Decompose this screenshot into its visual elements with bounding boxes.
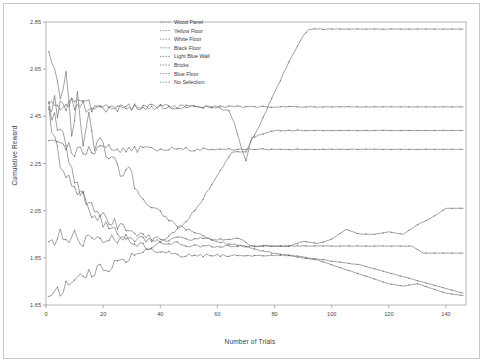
series-marker — [74, 230, 75, 231]
series-marker — [108, 228, 109, 229]
series-marker — [434, 215, 435, 216]
series-marker — [374, 279, 375, 280]
series-marker — [460, 130, 461, 131]
series-marker — [57, 146, 58, 147]
x-tick-label: 80 — [271, 311, 277, 317]
series-marker — [220, 238, 221, 239]
series-marker — [117, 229, 118, 230]
series-marker — [434, 130, 435, 131]
series-marker — [203, 199, 204, 200]
series-marker — [126, 152, 127, 153]
series-marker — [91, 111, 92, 112]
series-marker — [417, 224, 418, 225]
series-marker — [408, 106, 409, 107]
series-marker — [66, 110, 67, 111]
series-marker — [271, 98, 272, 99]
series-marker — [168, 149, 169, 150]
series-marker — [186, 230, 187, 231]
series-marker — [74, 120, 75, 121]
series-marker — [366, 246, 367, 247]
series-marker — [288, 255, 289, 256]
series-marker — [237, 246, 238, 247]
series-marker — [203, 238, 204, 239]
series-marker — [117, 111, 118, 112]
series-marker — [186, 246, 187, 247]
legend-label: Light Blue Wall — [174, 53, 210, 59]
series-marker — [417, 280, 418, 281]
series-marker — [228, 243, 229, 244]
series-marker — [66, 177, 67, 178]
series-marker — [220, 170, 221, 171]
series-marker — [151, 106, 152, 107]
series-marker — [126, 234, 127, 235]
series-marker — [306, 241, 307, 242]
series-marker — [323, 242, 324, 243]
series-marker — [331, 264, 332, 265]
y-axis-title: Cumulative Reward — [11, 111, 18, 201]
series-marker — [263, 255, 264, 256]
series-marker — [280, 255, 281, 256]
series-marker — [323, 149, 324, 150]
series-marker — [246, 242, 247, 243]
series-marker — [443, 29, 444, 30]
series-marker — [408, 130, 409, 131]
series-marker — [374, 246, 375, 247]
series-marker — [306, 149, 307, 150]
series-marker — [246, 151, 247, 152]
series-marker — [297, 149, 298, 150]
series-marker — [400, 29, 401, 30]
series-marker — [443, 287, 444, 288]
series-marker — [383, 106, 384, 107]
series-marker — [48, 51, 49, 52]
series-marker — [194, 150, 195, 151]
series-marker — [460, 149, 461, 150]
series-marker — [211, 239, 212, 240]
series-marker — [408, 29, 409, 30]
series-marker — [314, 106, 315, 107]
series-marker — [160, 239, 161, 240]
series-marker — [108, 158, 109, 159]
series-marker — [211, 184, 212, 185]
series-marker — [246, 106, 247, 107]
series-marker — [48, 140, 49, 141]
series-marker — [254, 137, 255, 138]
series-marker — [297, 130, 298, 131]
series-marker — [374, 149, 375, 150]
series-marker — [117, 149, 118, 150]
series-marker — [357, 106, 358, 107]
legend-label: Yellow Floor — [174, 28, 203, 34]
series-marker — [254, 135, 255, 136]
y-tick-label: 2.05 — [30, 208, 41, 214]
series-marker — [160, 210, 161, 211]
series-marker — [74, 156, 75, 157]
series-marker — [314, 259, 315, 260]
series-marker — [126, 239, 127, 240]
series-marker — [211, 107, 212, 108]
series-marker — [434, 29, 435, 30]
series-marker — [426, 130, 427, 131]
series-marker — [331, 261, 332, 262]
series-marker — [177, 237, 178, 238]
series-marker — [203, 245, 204, 246]
series-marker — [126, 230, 127, 231]
series-marker — [254, 246, 255, 247]
series-marker — [108, 271, 109, 272]
series-marker — [357, 264, 358, 265]
series-marker — [348, 230, 349, 231]
series-marker — [151, 248, 152, 249]
series-marker — [391, 284, 392, 285]
series-marker — [91, 217, 92, 218]
series-marker — [306, 130, 307, 131]
series-marker — [340, 267, 341, 268]
series-marker — [391, 29, 392, 30]
series-marker — [323, 130, 324, 131]
series-marker — [168, 236, 169, 237]
series-marker — [66, 281, 67, 282]
series-marker — [108, 224, 109, 225]
series-marker — [314, 130, 315, 131]
series-marker — [417, 149, 418, 150]
series-marker — [186, 256, 187, 257]
series-marker — [417, 130, 418, 131]
series-marker — [366, 149, 367, 150]
series-marker — [383, 29, 384, 30]
